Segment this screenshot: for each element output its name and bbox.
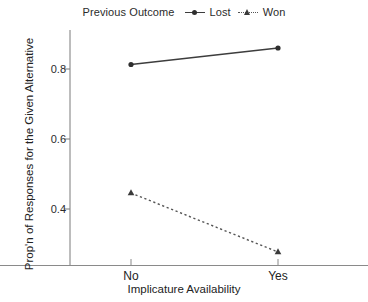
y-axis-title: Prop'n of Responses for the Given Altern… xyxy=(23,29,35,279)
series-lost xyxy=(128,45,280,67)
data-point-lost-no xyxy=(128,62,133,67)
data-point-won-yes xyxy=(275,248,282,254)
x-axis-title: Implicature Availability xyxy=(0,283,368,295)
series-won xyxy=(128,189,282,254)
data-point-lost-yes xyxy=(275,45,280,50)
series-won-line xyxy=(131,193,278,252)
x-tick-label-no: No xyxy=(123,269,138,283)
series-lost-line xyxy=(131,48,278,65)
x-tick-label-yes: Yes xyxy=(268,269,288,283)
plot-area xyxy=(0,0,368,302)
x-axis-ticks xyxy=(131,259,278,265)
data-point-won-no xyxy=(128,189,135,195)
chart-container: Previous Outcome Lost Won xyxy=(0,0,368,302)
